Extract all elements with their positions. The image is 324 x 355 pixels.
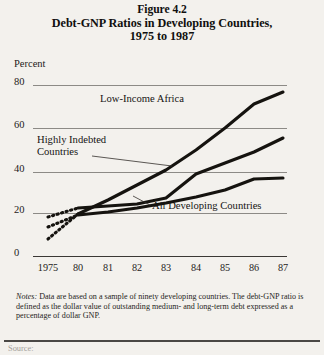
series-label-low-income-africa: Low-Income Africa bbox=[100, 93, 184, 105]
y-axis-title: Percent bbox=[14, 58, 46, 69]
x-tick-label-84: 84 bbox=[191, 262, 201, 273]
x-axis-labels: 1975 80 81 82 83 84 85 86 87 bbox=[0, 262, 324, 276]
x-tick-label-82: 82 bbox=[132, 262, 142, 273]
figure-page: Figure 4.2 Debt-GNP Ratios in Developing… bbox=[0, 0, 324, 355]
x-tick-label-1975: 1975 bbox=[38, 262, 58, 273]
gridline-40 bbox=[33, 172, 287, 173]
gridline-60 bbox=[33, 128, 287, 129]
figure-title-line-1: Debt-GNP Ratios in Developing Countries, bbox=[0, 17, 324, 31]
figure-title-line-2: 1975 to 1987 bbox=[0, 30, 324, 44]
gridline-80 bbox=[33, 85, 287, 86]
source-line-clipped: Source: bbox=[8, 344, 308, 355]
x-tick-label-87: 87 bbox=[278, 262, 288, 273]
x-tick-label-80: 80 bbox=[73, 262, 83, 273]
series-label-highly-indebted: Highly Indebted Countries bbox=[37, 134, 106, 157]
x-tick-label-85: 85 bbox=[220, 262, 230, 273]
x-tick-label-83: 83 bbox=[161, 262, 171, 273]
series-label-highly-indebted-line-2: Countries bbox=[37, 146, 78, 157]
series-label-all-developing: All Developing Countries bbox=[152, 200, 261, 212]
x-axis-baseline bbox=[33, 256, 287, 257]
plot-area bbox=[33, 85, 287, 256]
x-tick-label-86: 86 bbox=[249, 262, 259, 273]
x-tick-label-81: 81 bbox=[103, 262, 113, 273]
figure-number: Figure 4.2 bbox=[0, 3, 324, 17]
figure-title-block: Figure 4.2 Debt-GNP Ratios in Developing… bbox=[0, 3, 324, 44]
figure-notes: Notes: Data are based on a sample of nin… bbox=[16, 292, 312, 321]
gridline-20 bbox=[33, 213, 287, 214]
notes-heading: Notes: bbox=[16, 292, 37, 301]
bottom-divider bbox=[4, 340, 320, 342]
series-label-highly-indebted-line-1: Highly Indebted bbox=[37, 134, 106, 145]
notes-body: Data are based on a sample of ninety dev… bbox=[16, 292, 303, 320]
